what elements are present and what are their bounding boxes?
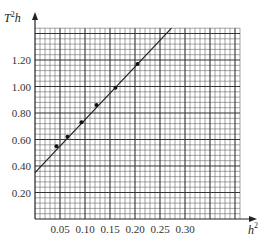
fit-line bbox=[35, 28, 172, 172]
x-tick-label: 0.25 bbox=[150, 223, 170, 235]
x-tick-labels: 0.050.100.150.200.250.30 bbox=[50, 223, 195, 235]
y-tick-label: 1.00 bbox=[12, 81, 32, 93]
x-tick-label: 0.10 bbox=[75, 223, 95, 235]
data-point bbox=[114, 86, 118, 90]
y-tick-label: 0.60 bbox=[12, 134, 32, 146]
y-tick-label: 0.20 bbox=[12, 187, 32, 199]
data-point bbox=[136, 62, 140, 66]
x-tick-label: 0.05 bbox=[50, 223, 70, 235]
x-tick-label: 0.20 bbox=[125, 223, 145, 235]
chart: 0.050.100.150.200.250.30 0.200.400.600.8… bbox=[0, 0, 272, 237]
data-point bbox=[66, 135, 70, 139]
y-axis-label: T2h bbox=[4, 10, 21, 25]
y-tick-label: 0.80 bbox=[12, 107, 32, 119]
y-tick-labels: 0.200.400.600.801.001.20 bbox=[12, 54, 32, 199]
y-axis-arrow-icon bbox=[32, 12, 38, 20]
x-tick-label: 0.15 bbox=[100, 223, 120, 235]
data-point bbox=[55, 144, 59, 148]
data-point bbox=[80, 120, 84, 124]
x-tick-label: 0.30 bbox=[175, 223, 195, 235]
axes bbox=[32, 12, 257, 222]
y-tick-label: 1.20 bbox=[12, 54, 32, 66]
x-axis-label: h2 bbox=[248, 221, 258, 237]
data-point bbox=[95, 103, 99, 107]
grid-minor bbox=[35, 28, 240, 219]
y-tick-label: 0.40 bbox=[12, 160, 32, 172]
